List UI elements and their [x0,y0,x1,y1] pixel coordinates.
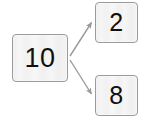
node-part-a-label: 2 [109,10,123,35]
arrow-10-to-2 [70,23,92,57]
node-part-b[interactable]: 8 [95,75,138,116]
node-sum-label: 10 [24,45,55,72]
node-part-b-label: 8 [109,83,123,108]
node-part-a[interactable]: 2 [95,2,138,43]
arrow-10-to-8 [70,60,92,94]
diagram-canvas: 10 2 8 [0,0,145,123]
node-sum[interactable]: 10 [12,34,68,82]
